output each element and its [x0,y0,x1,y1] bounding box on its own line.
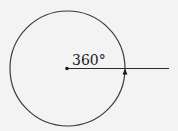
center-point [65,67,69,71]
angle-label: 360° [72,52,106,68]
diagram-canvas: 360° [0,0,178,131]
angle-diagram: 360° [0,0,178,131]
rotation-arrowhead-icon [123,69,128,75]
